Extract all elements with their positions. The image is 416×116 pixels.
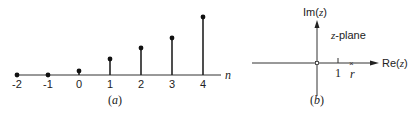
stem-n-4 (201, 15, 206, 75)
stem-dot-icon (77, 69, 82, 74)
panel-b-z-plane: Im(z) Re(z) 1 × r z-plane (b) (252, 6, 408, 107)
zero-at-origin-marker (316, 62, 319, 65)
re-z-label: Re(z) (382, 57, 408, 69)
imag-axis-arrow-icon (315, 20, 320, 28)
pole-r-label: r (350, 67, 355, 81)
stem-dot-icon (108, 57, 113, 62)
tick-label-n: -1 (43, 78, 53, 90)
stem-dot-icon (139, 46, 144, 51)
panel-a-stem-plot: -2-101234 n (a) (12, 15, 231, 107)
tick-label-n: 1 (107, 78, 113, 90)
stem-n--2 (15, 73, 20, 78)
caption-a: (a) (108, 93, 122, 107)
stem-dot-icon (15, 73, 20, 78)
tick-label-n: 3 (169, 78, 175, 90)
z-plane-label: z-plane (330, 29, 366, 41)
stem-n--1 (46, 73, 51, 78)
stem-dot-icon (46, 73, 51, 78)
tick-label-1: 1 (335, 66, 341, 80)
stem-dot-icon (170, 36, 175, 41)
n-axis-label: n (225, 68, 231, 82)
tick-label-n: 0 (76, 78, 82, 90)
figure: -2-101234 n (a) Im(z) Re(z) 1 × r z-plan… (0, 0, 416, 116)
caption-b: (b) (310, 93, 324, 107)
tick-label-n: -2 (12, 78, 22, 90)
real-axis-arrow-icon (370, 61, 379, 66)
stem-n-1 (108, 57, 113, 75)
stem-n-3 (170, 36, 175, 75)
stem-n-2 (139, 46, 144, 75)
tick-label-n: 4 (200, 78, 206, 90)
im-z-label: Im(z) (303, 6, 327, 18)
stem-n-0 (77, 69, 82, 75)
tick-label-n: 2 (138, 78, 144, 90)
stem-dot-icon (201, 15, 206, 20)
